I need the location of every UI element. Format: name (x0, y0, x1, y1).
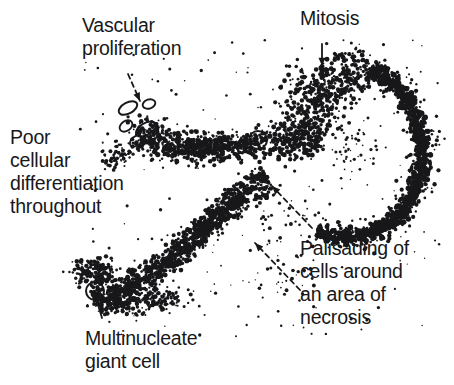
label-mitosis: Mitosis (300, 7, 359, 30)
label-vascular-proliferation: Vascular proliferation (82, 14, 181, 60)
label-poor-cellular-differentiation: Poor cellular differentiation throughout (10, 126, 124, 218)
label-multinucleate-giant-cell: Multinucleate giant cell (85, 327, 197, 373)
glioblastoma-histology-figure: Vascular proliferation Mitosis Poor cell… (0, 0, 454, 385)
label-palisading-necrosis: Palisading of cells around an area of ne… (300, 237, 409, 329)
